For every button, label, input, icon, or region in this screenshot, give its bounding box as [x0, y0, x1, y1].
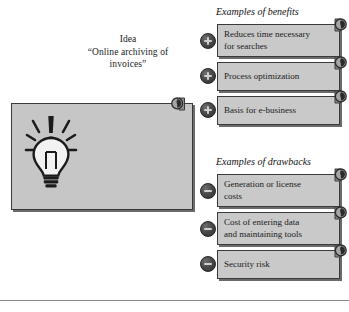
benefit-item-inner-3: Basis for e-business — [218, 97, 339, 124]
heading-examples-of-drawbacks: Examples of drawbacks — [216, 156, 311, 167]
drawback-item-line-1a: Generation or license — [224, 179, 334, 191]
benefit-item-inner-2: Process optimization — [218, 63, 339, 90]
benefit-item-line-1b: for searches — [224, 41, 334, 53]
heading-examples-of-benefits: Examples of benefits — [216, 6, 299, 17]
drawback-item-line-2b: and maintaining tools — [224, 229, 334, 241]
benefit-item-box-1: Reduces time necessary for searches — [217, 24, 340, 57]
minus-circle-icon — [200, 183, 216, 199]
benefit-item-line-3a: Basis for e-business — [224, 105, 334, 117]
lightbulb-icon — [24, 112, 78, 190]
drawback-item-line-2a: Cost of entering data — [224, 217, 334, 229]
idea-title: Idea — [78, 33, 178, 46]
drawback-item-line-3a: Security risk — [224, 259, 334, 271]
idea-quote-line-2: invoices” — [78, 58, 178, 71]
drawback-item-box-1: Generation or license costs — [217, 174, 340, 207]
drawback-item-inner-1: Generation or license costs — [218, 175, 339, 206]
drawback-item-line-1b: costs — [224, 191, 334, 203]
bottom-divider — [0, 300, 349, 301]
drawback-item-box-2: Cost of entering data and maintaining to… — [217, 212, 340, 245]
drawback-item-inner-2: Cost of entering data and maintaining to… — [218, 213, 339, 244]
drawback-item-box-3: Security risk — [217, 250, 340, 279]
minus-circle-icon — [200, 256, 216, 272]
benefit-item-line-1a: Reduces time necessary — [224, 29, 334, 41]
benefit-item-inner-1: Reduces time necessary for searches — [218, 25, 339, 56]
benefit-item-line-2a: Process optimization — [224, 71, 334, 83]
minus-circle-icon — [200, 221, 216, 237]
drawback-item-label-1: Generation or license costs — [218, 179, 339, 202]
benefit-item-box-2: Process optimization — [217, 62, 340, 91]
idea-text: Idea “Online archiving of invoices” — [78, 33, 178, 71]
plus-circle-icon — [200, 33, 216, 49]
plus-circle-icon — [200, 68, 216, 84]
plus-circle-icon — [200, 102, 216, 118]
drawback-item-label-3: Security risk — [218, 259, 339, 271]
benefit-item-label-3: Basis for e-business — [218, 105, 339, 117]
drawback-item-label-2: Cost of entering data and maintaining to… — [218, 217, 339, 240]
benefit-item-label-1: Reduces time necessary for searches — [218, 29, 339, 52]
benefit-item-box-3: Basis for e-business — [217, 96, 340, 125]
drawback-item-inner-3: Security risk — [218, 251, 339, 278]
benefit-item-label-2: Process optimization — [218, 71, 339, 83]
idea-quote-line-1: “Online archiving of — [78, 46, 178, 59]
